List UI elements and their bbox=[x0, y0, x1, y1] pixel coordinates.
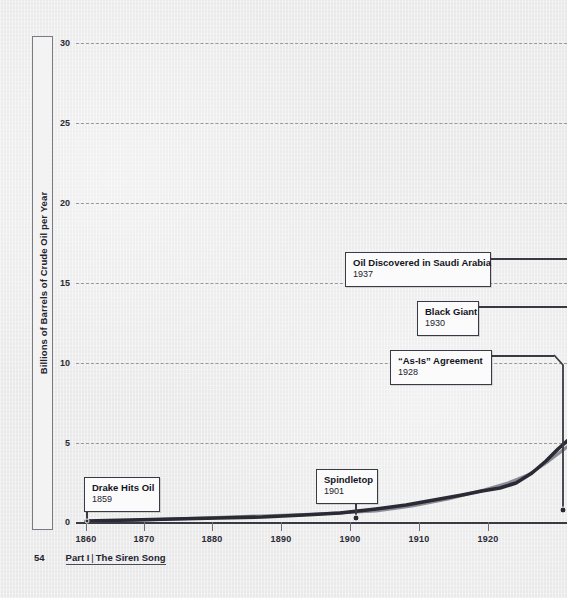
x-tick-1870: 1870 bbox=[134, 534, 155, 544]
callout-saudi-title: Oil Discovered in Saudi Arabia bbox=[353, 257, 483, 268]
oil-production-chart: Billions of Barrels of Crude Oil per Yea… bbox=[0, 0, 567, 598]
callout-as-is-agreement[interactable]: “As-Is” Agreement 1928 bbox=[390, 350, 492, 385]
callout-spindletop[interactable]: Spindletop 1901 bbox=[316, 469, 378, 504]
running-head: Part I|The Siren Song bbox=[66, 552, 166, 565]
y-tick-5: 5 bbox=[65, 438, 70, 448]
leader-asis-path bbox=[554, 355, 563, 510]
leader-blackgiant-diagonal-group bbox=[478, 306, 567, 356]
datapoint-spindletop-1901 bbox=[353, 515, 360, 522]
callout-drake-hits-oil[interactable]: Drake Hits Oil 1859 bbox=[84, 477, 160, 512]
x-tick-mark-1880 bbox=[212, 522, 213, 531]
y-tick-0: 0 bbox=[65, 517, 70, 527]
y-tick-20: 20 bbox=[60, 198, 70, 208]
page-footer: 54 Part I|The Siren Song bbox=[34, 552, 166, 565]
x-tick-1900: 1900 bbox=[340, 534, 361, 544]
datapoint-asis-1928 bbox=[560, 507, 567, 514]
x-tick-1860: 1860 bbox=[76, 534, 97, 544]
callout-drake-title: Drake Hits Oil bbox=[92, 482, 152, 493]
x-tick-1920: 1920 bbox=[478, 534, 499, 544]
running-head-part: Part I bbox=[66, 552, 90, 563]
x-tick-1890: 1890 bbox=[271, 534, 292, 544]
datapoint-drake-1859 bbox=[85, 519, 90, 524]
callout-asis-title: “As-Is” Agreement bbox=[398, 355, 484, 366]
x-tick-mark-1920 bbox=[488, 522, 489, 531]
page-number: 54 bbox=[34, 552, 45, 563]
callout-saudi-year: 1937 bbox=[353, 269, 483, 280]
y-tick-15: 15 bbox=[60, 278, 70, 288]
y-axis-tick-labels: 30 25 20 15 10 5 0 bbox=[52, 0, 70, 598]
x-tick-1910: 1910 bbox=[409, 534, 430, 544]
callout-blackgiant-title: Black Giant bbox=[425, 306, 471, 317]
y-axis-title-box: Billions of Barrels of Crude Oil per Yea… bbox=[32, 36, 53, 530]
leader-asis-path-group bbox=[492, 355, 567, 515]
x-tick-mark-1870 bbox=[144, 522, 145, 531]
callout-spindletop-year: 1901 bbox=[324, 486, 370, 497]
y-tick-30: 30 bbox=[60, 38, 70, 48]
y-tick-10: 10 bbox=[60, 358, 70, 368]
callout-saudi-arabia[interactable]: Oil Discovered in Saudi Arabia 1937 bbox=[345, 252, 491, 287]
x-tick-1880: 1880 bbox=[202, 534, 223, 544]
y-axis-title-label: Billions of Barrels of Crude Oil per Yea… bbox=[37, 192, 48, 374]
callout-black-giant[interactable]: Black Giant 1930 bbox=[417, 301, 479, 336]
callout-drake-year: 1859 bbox=[92, 494, 152, 505]
y-tick-25: 25 bbox=[60, 118, 70, 128]
callout-asis-year: 1928 bbox=[398, 367, 484, 378]
running-head-section: The Siren Song bbox=[96, 552, 166, 563]
leader-saudi-diagonal-group bbox=[490, 258, 567, 308]
x-tick-mark-1900 bbox=[350, 522, 351, 531]
callout-blackgiant-year: 1930 bbox=[425, 318, 471, 329]
x-tick-mark-1910 bbox=[419, 522, 420, 531]
callout-spindletop-title: Spindletop bbox=[324, 474, 370, 485]
x-tick-mark-1890 bbox=[281, 522, 282, 531]
x-axis-line bbox=[76, 522, 567, 524]
